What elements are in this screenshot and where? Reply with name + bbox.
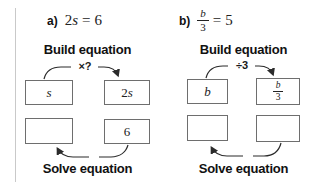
box-b-variable-text: b xyxy=(204,84,211,100)
box-b-result-blank xyxy=(256,115,300,142)
box-a-expression-text: 2s xyxy=(121,85,133,101)
equals-sign: = xyxy=(82,12,90,29)
equation-coefficient: 2s xyxy=(65,12,78,29)
solve-arrow-a xyxy=(58,145,129,157)
problem-b-label: b) xyxy=(179,14,190,28)
box-a-result: 6 xyxy=(104,119,150,144)
build-equation-label-b: Build equation xyxy=(187,42,300,57)
equals-sign: = xyxy=(213,12,221,29)
box-a-result-text: 6 xyxy=(124,124,131,140)
box-b-expression: b 3 xyxy=(256,78,300,105)
problem-a-equation: 2s = 6 xyxy=(65,12,102,29)
problem-b-equation: b 3 = 5 xyxy=(197,8,232,33)
build-equation-label-a: Build equation xyxy=(25,42,150,57)
box-b-variable: b xyxy=(187,79,228,104)
box-a-variable-text: s xyxy=(46,85,51,101)
problem-a-header: a) 2s = 6 xyxy=(47,12,102,29)
fraction: b 3 xyxy=(273,81,284,103)
solve-equation-label-b: Solve equation xyxy=(187,161,300,176)
box-a-expression: 2s xyxy=(104,80,150,105)
problem-b-header: b) b 3 = 5 xyxy=(179,8,233,33)
fraction: b 3 xyxy=(197,8,209,33)
equation-value: 6 xyxy=(94,12,102,29)
left-margin-rule xyxy=(15,8,16,182)
box-a-variable: s xyxy=(25,80,73,105)
box-a-solution-blank xyxy=(25,118,73,144)
operation-label-b: ÷3 xyxy=(229,59,255,71)
equation-value: 5 xyxy=(225,12,233,29)
problem-a-label: a) xyxy=(47,14,58,28)
solve-equation-label-a: Solve equation xyxy=(25,161,150,176)
worksheet-diagram: a) 2s = 6 Build equation ×? s 2s 6 Solve… xyxy=(0,0,317,188)
solve-arrow-b xyxy=(212,143,282,156)
box-b-solution-blank xyxy=(187,115,228,141)
operation-label-a: ×? xyxy=(72,60,98,72)
